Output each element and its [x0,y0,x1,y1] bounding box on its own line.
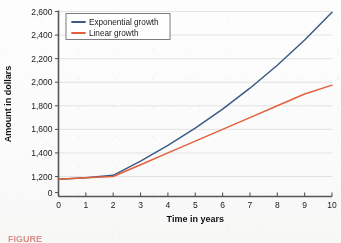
y-axis-title-group: Amount in dollars [3,66,13,143]
x-tick-label: 5 [193,200,198,210]
x-tick-label: 1 [83,200,88,210]
y-tick-label: 2,600 [31,7,53,17]
x-axis-title: Time in years [167,214,224,224]
x-tick-label: 0 [56,200,61,210]
y-tick-label: 1,800 [31,101,53,111]
x-tick-label: 2 [111,200,116,210]
x-tick-label: 4 [166,200,171,210]
series-line-linear [59,85,333,179]
figure-container: 01,2001,4001,6001,8002,0002,2002,4002,60… [0,0,341,243]
x-tick-label: 7 [248,200,253,210]
x-tick-label: 8 [275,200,280,210]
y-tick-label: 2,400 [31,30,53,40]
x-tick-label: 10 [327,200,337,210]
legend-label-linear: Linear growth [89,29,139,38]
y-tick-label: 2,200 [31,54,53,64]
y-tick-label: 1,400 [31,148,53,158]
x-tick-label: 6 [220,200,225,210]
y-axis-title: Amount in dollars [3,66,13,143]
x-tick-label: 9 [302,200,307,210]
figure-caption-strip: FIGURE [0,233,341,243]
y-tick-label: 0 [48,188,53,198]
y-tick-label: 2,000 [31,77,53,87]
y-tick-label: 1,200 [31,172,53,182]
figure-caption-label: FIGURE [8,234,42,243]
x-tick-label: 3 [138,200,143,210]
growth-comparison-chart: 01,2001,4001,6001,8002,0002,2002,4002,60… [0,0,341,243]
y-tick-label: 1,600 [31,124,53,134]
legend-label-exponential: Exponential growth [89,18,159,27]
chart-canvas: 01,2001,4001,6001,8002,0002,2002,4002,60… [0,0,341,243]
